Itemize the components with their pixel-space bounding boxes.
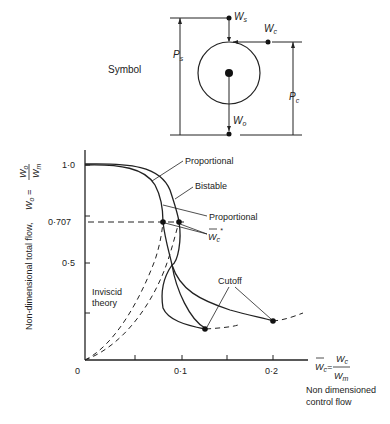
label-wc-star: Wc* — [208, 227, 223, 243]
ws-label: Ws — [234, 11, 247, 23]
svg-text:Wo: Wo — [18, 166, 29, 179]
label-inviscid-line1: Inviscid — [92, 287, 122, 297]
cutoff-point-2 — [270, 318, 276, 324]
cutoff-point-1 — [202, 326, 208, 332]
x-tick-0-2: 0·2 — [265, 366, 278, 376]
y-tick-0-5: 0·5 — [62, 258, 75, 268]
svg-text:Wm: Wm — [334, 371, 349, 382]
y-tick-1-0: 1·0 — [62, 160, 75, 170]
label-cutoff: Cutoff — [218, 276, 242, 286]
svg-text:Wc: Wc — [336, 354, 349, 365]
element-center-dot — [225, 69, 233, 77]
label-proportional-mid: Proportional — [209, 212, 258, 222]
symbol-label: Symbol — [108, 64, 141, 75]
x-axis-formula: Wc= Wc Wm — [315, 354, 350, 382]
wc-arrow-icon — [233, 40, 238, 44]
cutoff-dashed-2 — [273, 313, 303, 321]
y-tick-0-707: 0·707 — [48, 217, 71, 227]
ps-arrow-icon — [178, 18, 182, 24]
wc-star-point-1 — [160, 219, 166, 225]
svg-text:Non-dimensional total flow,: Non-dimensional total flow, — [24, 222, 34, 330]
wo-arrow-icon — [227, 126, 231, 131]
wo-port-dot — [227, 132, 232, 137]
x-axis-label-line1: Non dimensioned — [306, 385, 376, 395]
svg-text:Wm: Wm — [31, 164, 42, 179]
label-proportional-top: Proportional — [185, 156, 234, 166]
wc-label: Wc — [264, 23, 277, 35]
pc-arrow-icon — [291, 42, 295, 48]
x-tick-0: 0 — [75, 366, 80, 376]
pc-label: Pc — [289, 91, 300, 104]
x-tick-0-1: 0·1 — [174, 366, 187, 376]
svg-text:Wo =: Wo = — [24, 190, 35, 210]
fluidic-element-symbol: Symbol Ps Pc Ws Wc Wo — [108, 11, 302, 137]
ws-arrow-icon — [227, 37, 231, 42]
bistable-cutoff-branch — [172, 265, 273, 321]
wo-label: Wo — [233, 115, 246, 127]
label-bistable: Bistable — [195, 181, 227, 191]
ps-label: Ps — [173, 49, 184, 62]
svg-text:Wc=: Wc= — [315, 362, 332, 373]
fluidic-diagram: Symbol Ps Pc Ws Wc Wo N — [0, 0, 390, 424]
characteristic-chart: Non-dimensional total flow, Wo = Wo Wm 1… — [18, 150, 376, 407]
cutoff-dashed-1 — [206, 325, 238, 329]
y-axis-label: Non-dimensional total flow, Wo = Wo Wm — [18, 164, 42, 331]
x-axis-label-line2: control flow — [306, 397, 352, 407]
label-inviscid-line2: theory — [92, 298, 118, 308]
